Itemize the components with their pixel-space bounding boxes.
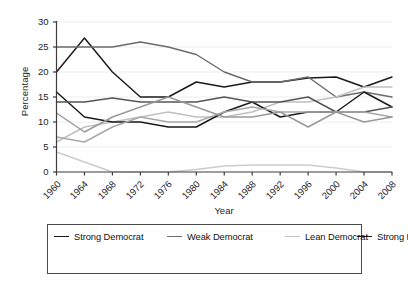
series-line (57, 42, 393, 97)
legend-item[interactable]: Lean Democrat (285, 230, 357, 243)
legend-item-label: Strong Democrat (74, 232, 144, 242)
legend-item-label: Weak Democrat (187, 232, 253, 242)
y-axis-tick-label: 30 (27, 17, 49, 27)
legend-item-label: Strong Republican (377, 232, 408, 242)
y-axis-tick-label: 15 (27, 92, 49, 102)
legend-color-swatch (285, 236, 300, 237)
line-chart: Percentage Year 051015202530 19601964196… (0, 0, 408, 286)
y-axis-tick-label: 5 (27, 142, 49, 152)
y-axis-tick-label: 25 (27, 42, 49, 52)
legend-item[interactable]: Strong Republican (357, 230, 408, 243)
series-line (57, 152, 393, 172)
series-line (57, 97, 393, 132)
chart-legend: Strong DemocratWeak DemocratLean Democra… (47, 224, 362, 274)
y-axis-tick-label: 0 (27, 167, 49, 177)
legend-item[interactable]: Strong Democrat (54, 230, 167, 243)
legend-color-swatch (357, 236, 372, 237)
legend-color-swatch (167, 236, 182, 237)
y-axis-tick-label: 20 (27, 67, 49, 77)
series-line (57, 97, 393, 112)
y-axis-tick-label: 10 (27, 117, 49, 127)
legend-item[interactable]: Weak Democrat (167, 230, 285, 243)
legend-color-swatch (54, 236, 69, 237)
x-axis-title: Year (56, 205, 392, 216)
series-line (57, 107, 393, 142)
